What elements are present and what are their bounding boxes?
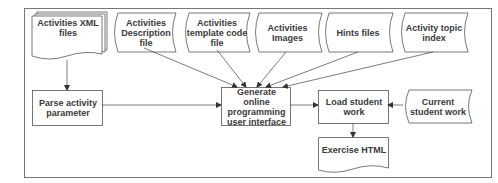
node-parse-activity-parameter: Parse activity parameter xyxy=(34,92,102,124)
node-activity-topic-index: Activity topic index xyxy=(402,14,466,51)
edge-images-to-generate xyxy=(257,52,286,87)
node-activities-xml-files: Activities XML files xyxy=(34,17,102,39)
edge-topic-to-generate xyxy=(283,52,433,87)
node-activities-template-code-file: Activities template code file xyxy=(186,14,248,51)
node-activities-description-file: Activities Description file xyxy=(116,14,176,51)
node-hints-files: Hints files xyxy=(326,14,390,51)
edge-hints-to-generate xyxy=(266,52,358,87)
node-activities-images: Activities Images xyxy=(256,14,319,51)
node-generate-online-programming-ui: Generate online programming user interfa… xyxy=(223,89,290,124)
node-current-student-work: Current student work xyxy=(406,91,470,122)
node-exercise-html: Exercise HTML xyxy=(320,140,388,160)
edge-template-to-generate xyxy=(217,50,246,87)
edge-description-to-generate xyxy=(144,48,237,87)
node-load-student-work: Load student work xyxy=(320,92,388,122)
